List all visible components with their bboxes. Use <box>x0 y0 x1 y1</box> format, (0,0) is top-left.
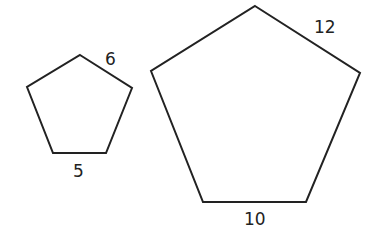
small-pentagon <box>27 55 132 153</box>
large-pentagon-slant-label: 12 <box>314 17 336 37</box>
small-pentagon-slant-label: 6 <box>105 49 116 69</box>
large-pentagon-bottom-label: 10 <box>244 209 266 229</box>
pentagons-diagram: 6 5 12 10 <box>0 0 380 240</box>
small-pentagon-bottom-label: 5 <box>73 161 84 181</box>
